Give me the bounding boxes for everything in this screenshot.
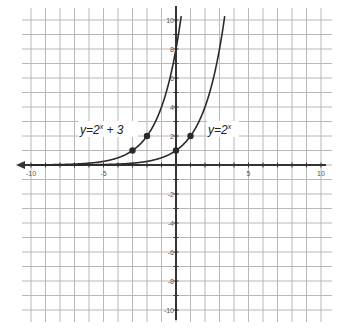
data-point bbox=[173, 147, 179, 153]
data-point bbox=[129, 147, 135, 153]
y-tick-label: -8 bbox=[168, 278, 174, 285]
y-tick-label: 4 bbox=[170, 104, 174, 111]
y-tick-label: -2 bbox=[168, 191, 174, 198]
data-point bbox=[187, 133, 193, 139]
y-tick-label: -4 bbox=[168, 220, 174, 227]
y-tick-label: 2 bbox=[170, 133, 174, 140]
x-tick-label: -5 bbox=[100, 170, 106, 177]
equation-labels: y=2x + 3 y=2x bbox=[78, 121, 239, 137]
x-tick-label: 10 bbox=[317, 170, 325, 177]
y-tick-label: 10 bbox=[166, 17, 174, 24]
coordinate-graph: -10 -5 5 10 10 8 6 4 2 -2 -4 -6 -8 -10 y… bbox=[0, 0, 344, 332]
x-tick-label: 5 bbox=[247, 170, 251, 177]
x-tick-label: -10 bbox=[26, 170, 36, 177]
data-point bbox=[144, 133, 150, 139]
y-tick-label: 8 bbox=[170, 46, 174, 53]
axes bbox=[16, 6, 326, 320]
y-tick-label: -10 bbox=[164, 307, 174, 314]
y-tick-label: -6 bbox=[168, 249, 174, 256]
x-axis-left-arrow-icon bbox=[16, 161, 25, 169]
curve-y-2x-plus-3 bbox=[31, 16, 181, 165]
